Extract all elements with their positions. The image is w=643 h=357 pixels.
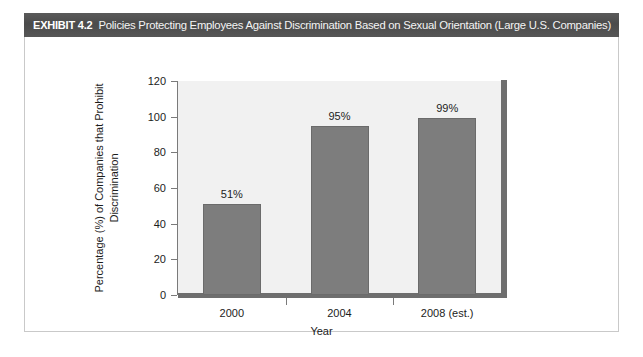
exhibit-title: Policies Protecting Employees Against Di… xyxy=(99,19,611,31)
y-axis-tick xyxy=(171,117,177,118)
x-axis-tick xyxy=(393,298,394,305)
y-axis-line xyxy=(177,81,178,295)
y-axis-tick xyxy=(171,188,177,189)
plot-right-border xyxy=(501,80,507,298)
bar-value-label: 99% xyxy=(418,102,476,114)
y-axis-tick-label: 80 xyxy=(126,146,166,158)
bar-2000 xyxy=(203,204,261,295)
y-axis-tick-label: 60 xyxy=(126,182,166,194)
y-axis-title: Percentage (%) of Companies that Prohibi… xyxy=(20,81,140,295)
y-axis-tick-label: 0 xyxy=(126,289,166,301)
x-axis-category-label: 2008 (est.) xyxy=(402,307,492,319)
x-axis-tick xyxy=(286,298,287,305)
y-axis-title-line-1: Percentage (%) of Companies that Prohibi… xyxy=(92,83,107,292)
x-axis-category-label: 2000 xyxy=(187,307,277,319)
bar-chart: Percentage (%) of Companies that Prohibi… xyxy=(25,37,618,330)
exhibit-header: EXHIBIT 4.2 Policies Protecting Employee… xyxy=(24,13,619,37)
y-axis-tick xyxy=(171,224,177,225)
bar-2004 xyxy=(311,126,369,295)
x-axis-category-label: 2004 xyxy=(295,307,385,319)
y-axis-tick xyxy=(171,295,177,296)
exhibit-number: EXHIBIT 4.2 xyxy=(33,19,93,31)
bar-2008-est- xyxy=(418,118,476,295)
exhibit-container: EXHIBIT 4.2 Policies Protecting Employee… xyxy=(24,13,619,335)
x-axis-title: Year xyxy=(25,325,618,337)
y-axis-tick xyxy=(171,152,177,153)
y-axis-tick-label: 20 xyxy=(126,253,166,265)
y-axis-tick-label: 40 xyxy=(126,218,166,230)
y-axis-tick-label: 100 xyxy=(126,111,166,123)
y-axis-tick-label: 120 xyxy=(126,75,166,87)
exhibit-body: Percentage (%) of Companies that Prohibi… xyxy=(24,37,619,332)
y-axis-tick xyxy=(171,259,177,260)
bar-value-label: 95% xyxy=(311,110,369,122)
bar-value-label: 51% xyxy=(203,188,261,200)
y-axis-tick xyxy=(171,81,177,82)
y-axis-title-line-2: Discrimination xyxy=(107,153,122,222)
